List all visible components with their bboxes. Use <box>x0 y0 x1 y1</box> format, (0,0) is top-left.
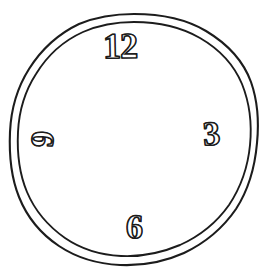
clock-numeral-6: 6 <box>126 210 144 244</box>
clock-numeral-3: 3 <box>202 116 221 151</box>
clock-drawing-canvas: 12 3 6 9 <box>0 0 272 279</box>
clock-numeral-9: 9 <box>25 130 58 148</box>
clock-numeral-12: 12 <box>103 28 138 65</box>
